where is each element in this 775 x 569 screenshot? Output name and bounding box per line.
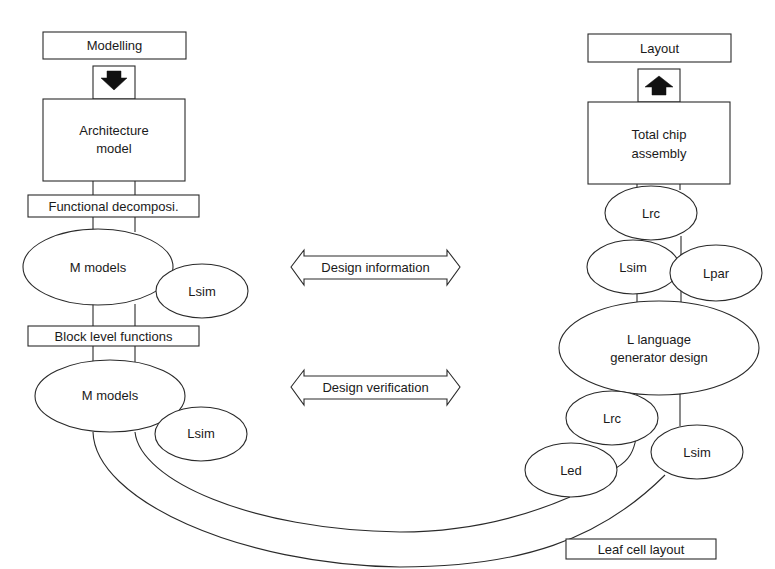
- architecture-label-line1: Architecture: [79, 123, 148, 138]
- m-models-ellipse-1: M models: [23, 229, 173, 305]
- block-level-functions-box: Block level functions: [28, 326, 199, 346]
- lsim-label-2: Lsim: [187, 426, 214, 441]
- lpar-label: Lpar: [703, 266, 730, 281]
- l-language-generator-ellipse: L language generator design: [559, 301, 759, 395]
- led-ellipse: Led: [525, 443, 617, 497]
- modelling-label: Modelling: [87, 38, 143, 53]
- right-column: Layout Total chip assembly Lrc Lsim Lpar…: [525, 34, 762, 559]
- functional-decomposition-label: Functional decomposi.: [48, 199, 178, 214]
- leaf-cell-layout-box: Leaf cell layout: [566, 539, 716, 559]
- lsim-ellipse-2: Lsim: [155, 407, 247, 461]
- total-chip-label-line1: Total chip: [632, 127, 687, 142]
- lsim-label-3: Lsim: [619, 260, 646, 275]
- modelling-box: Modelling: [43, 32, 186, 59]
- led-label: Led: [560, 463, 582, 478]
- design-information-arrow: Design information: [291, 250, 460, 285]
- leaf-cell-layout-label: Leaf cell layout: [598, 542, 685, 557]
- architecture-label-line2: model: [96, 141, 132, 156]
- lsim-ellipse-4: Lsim: [651, 425, 743, 479]
- lsim-ellipse-3: Lsim: [587, 240, 679, 294]
- left-column: Modelling Architecture model Functional …: [23, 32, 248, 461]
- lrc-ellipse-1: Lrc: [605, 186, 697, 240]
- l-language-label-line1: L language: [627, 332, 691, 347]
- m-models-label-1: M models: [70, 260, 127, 275]
- lsim-label-1: Lsim: [188, 284, 215, 299]
- down-arrow-box: [93, 66, 135, 99]
- block-level-functions-label: Block level functions: [55, 329, 173, 344]
- lrc-label-1: Lrc: [642, 206, 661, 221]
- m-models-label-2: M models: [82, 388, 139, 403]
- design-verification-label: Design verification: [322, 380, 428, 395]
- lsim-ellipse-1: Lsim: [156, 264, 248, 318]
- architecture-model-box: Architecture model: [43, 99, 185, 181]
- functional-decomposition-box: Functional decomposi.: [28, 195, 199, 217]
- layout-label: Layout: [640, 41, 679, 56]
- lrc-label-2: Lrc: [603, 411, 622, 426]
- design-flow-diagram: Modelling Architecture model Functional …: [0, 0, 775, 569]
- total-chip-assembly-box: Total chip assembly: [588, 102, 730, 184]
- up-arrow-box: [638, 69, 680, 102]
- design-verification-arrow: Design verification: [291, 370, 460, 405]
- lrc-ellipse-2: Lrc: [566, 391, 658, 445]
- lpar-ellipse: Lpar: [670, 245, 762, 301]
- total-chip-label-line2: assembly: [632, 146, 687, 161]
- layout-box: Layout: [588, 34, 731, 62]
- lsim-label-4: Lsim: [683, 445, 710, 460]
- design-information-label: Design information: [321, 260, 429, 275]
- l-language-label-line2: generator design: [610, 350, 708, 365]
